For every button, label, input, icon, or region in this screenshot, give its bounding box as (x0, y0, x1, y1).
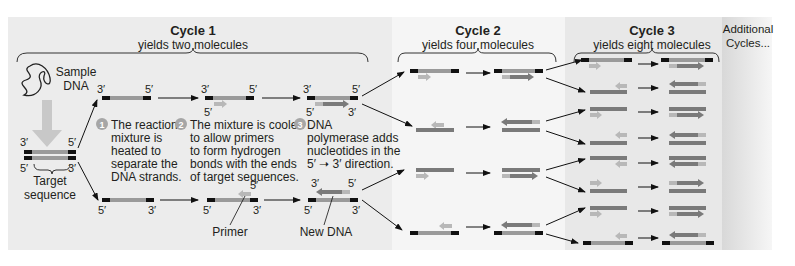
end-label: 3′ (303, 83, 311, 95)
end-label: 5′ (306, 106, 314, 118)
strand-bottom-1 (102, 198, 154, 202)
end-label: 3′ (20, 136, 28, 148)
cycle3-title: Cycle 3 (629, 23, 675, 38)
svg-text:separate the: separate the (111, 157, 178, 171)
end-label: 5′ (68, 136, 76, 148)
end-label: 5′ (98, 204, 106, 216)
svg-text:polymerase adds: polymerase adds (307, 131, 398, 145)
end-label: 3′ (148, 204, 156, 216)
sample-label-1: Sample (56, 65, 97, 79)
end-label: 5′ (20, 162, 28, 174)
svg-text:nucleotides in the: nucleotides in the (307, 144, 401, 158)
end-label: 5′ (203, 204, 211, 216)
target-label-1: Target (33, 174, 67, 188)
cycle2-title: Cycle 2 (455, 23, 501, 38)
additional-line2: Cycles... (726, 37, 770, 49)
end-label: 3′ (311, 177, 319, 189)
additional-line1: Additional (723, 23, 774, 35)
end-label: 5′ (348, 177, 356, 189)
end-label: 5′ (249, 83, 257, 95)
primer-label: Primer (212, 225, 247, 239)
svg-text:3: 3 (297, 120, 302, 130)
svg-text:2: 2 (178, 120, 183, 130)
svg-text:to form hydrogen: to form hydrogen (190, 144, 281, 158)
end-label: 3′ (97, 83, 105, 95)
strand-top-1 (102, 96, 151, 100)
svg-text:DNA: DNA (307, 118, 332, 132)
svg-text:DNA strands.: DNA strands. (111, 170, 182, 184)
new-dna-label: New DNA (300, 225, 353, 239)
sample-label-2: DNA (63, 79, 88, 93)
end-label: 5′ (145, 83, 153, 95)
end-label: 3′ (201, 83, 209, 95)
svg-text:bonds with the ends: bonds with the ends (190, 157, 297, 171)
svg-text:to allow primers: to allow primers (190, 131, 274, 145)
end-label: 3′ (348, 106, 356, 118)
svg-text:mixture is: mixture is (111, 131, 162, 145)
pcr-diagram: Cycle 1 yields two molecules Cycle 2 yie… (0, 0, 795, 266)
end-label: 3′ (352, 204, 360, 216)
svg-text:The reaction: The reaction (111, 118, 178, 132)
svg-text:1: 1 (99, 120, 104, 130)
end-label: 5′ (204, 106, 212, 118)
additional-panel (722, 17, 772, 250)
svg-text:The mixture is cooled: The mixture is cooled (190, 118, 304, 132)
target-label-2: sequence (24, 188, 76, 202)
end-label: 5′ (352, 83, 360, 95)
end-label: 3′ (253, 204, 261, 216)
svg-text:heated to: heated to (111, 144, 161, 158)
svg-text:of target sequences.: of target sequences. (190, 170, 299, 184)
svg-text:5′ ➝ 3′ direction.: 5′ ➝ 3′ direction. (307, 157, 394, 171)
cycle1-title: Cycle 1 (170, 23, 216, 38)
end-label: 5′ (304, 204, 312, 216)
end-label: 5′ (250, 179, 258, 191)
